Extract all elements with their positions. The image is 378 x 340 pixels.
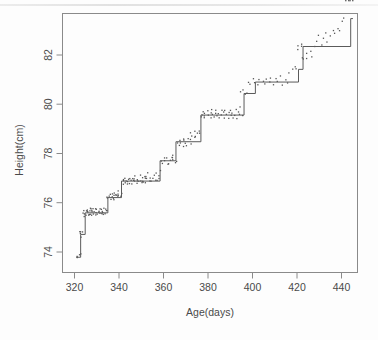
data-point [79, 254, 80, 255]
data-point [179, 140, 180, 141]
plot-frame-box [63, 14, 358, 273]
data-point [99, 208, 100, 209]
y-tick-label-0: 74 [42, 246, 54, 258]
data-point [230, 110, 231, 111]
data-point [310, 51, 311, 52]
data-point [190, 139, 191, 140]
data-point [172, 159, 173, 160]
data-point [236, 118, 237, 119]
data-point [219, 117, 220, 118]
data-point [127, 183, 128, 184]
data-point [288, 72, 289, 73]
data-point [266, 78, 267, 79]
data-point [168, 163, 169, 164]
data-point [343, 17, 344, 18]
data-point [134, 175, 135, 176]
data-point [218, 113, 219, 114]
data-point [164, 157, 165, 158]
data-point [249, 84, 250, 85]
data-point [316, 41, 317, 42]
data-point [123, 179, 124, 180]
data-point [242, 89, 243, 90]
data-point [156, 172, 157, 173]
data-point [232, 117, 233, 118]
x-axis-ticks [75, 273, 342, 279]
data-point [110, 194, 111, 195]
data-point [211, 112, 212, 113]
data-point [82, 212, 83, 213]
data-point [285, 79, 286, 80]
data-point [112, 193, 113, 194]
data-point [79, 231, 80, 232]
data-point [342, 21, 343, 22]
scatter-points-layer [76, 0, 353, 258]
data-point [101, 209, 102, 210]
data-point [145, 176, 146, 177]
data-point [96, 209, 97, 210]
data-point [301, 44, 302, 45]
data-point [207, 110, 208, 111]
data-point [248, 82, 249, 83]
data-point [114, 192, 115, 193]
data-point [125, 182, 126, 183]
x-tick-label-6: 440 [333, 281, 351, 293]
data-point [311, 56, 312, 57]
data-point [240, 91, 241, 92]
data-point [349, 0, 350, 1]
data-point [282, 84, 283, 85]
data-point [110, 199, 111, 200]
scatter-plot-canvas: 320 340 360 380 400 420 440 74 76 78 80 … [0, 0, 378, 340]
data-point [183, 146, 184, 147]
x-axis-tick-labels: 320 340 360 380 400 420 440 [66, 281, 351, 293]
x-tick-label-1: 340 [110, 281, 128, 293]
data-point [275, 78, 276, 79]
data-point [82, 231, 83, 232]
data-point [257, 84, 258, 85]
data-point [133, 178, 134, 179]
step-function-line [76, 19, 353, 258]
data-point [123, 184, 124, 185]
data-point [132, 178, 133, 179]
x-axis-title: Age(days) [186, 306, 234, 318]
data-point [292, 69, 293, 70]
data-point [90, 208, 91, 209]
data-point [318, 35, 319, 36]
data-point [203, 111, 204, 112]
data-point [175, 162, 176, 163]
data-point [273, 84, 274, 85]
data-point [214, 116, 215, 117]
y-axis-title: Height(cm) [13, 124, 25, 175]
data-point [325, 32, 326, 33]
data-point [128, 179, 129, 180]
data-point [297, 45, 298, 46]
data-point [186, 145, 187, 146]
data-point [113, 195, 114, 196]
data-point [89, 210, 90, 211]
y-tick-label-2: 78 [42, 148, 54, 160]
data-point [215, 113, 216, 114]
data-point [124, 178, 125, 179]
data-point [197, 132, 198, 133]
data-point [228, 112, 229, 113]
data-point [180, 142, 181, 143]
data-point [224, 110, 225, 111]
data-point [113, 199, 114, 200]
data-point [231, 112, 232, 113]
data-point [91, 210, 92, 211]
data-point [137, 179, 138, 180]
data-point [215, 110, 216, 111]
data-point [228, 118, 229, 119]
x-tick-label-3: 380 [199, 281, 217, 293]
data-point [146, 178, 147, 179]
data-point [118, 195, 119, 196]
data-point [330, 35, 331, 36]
data-point [95, 214, 96, 215]
y-axis-ticks [57, 55, 63, 252]
data-point [117, 194, 118, 195]
data-point [91, 211, 92, 212]
data-point [147, 172, 148, 173]
data-point [93, 211, 94, 212]
data-point [177, 142, 178, 143]
data-point [158, 175, 159, 176]
figure-root: 320 340 360 380 400 420 440 74 76 78 80 … [0, 0, 378, 340]
